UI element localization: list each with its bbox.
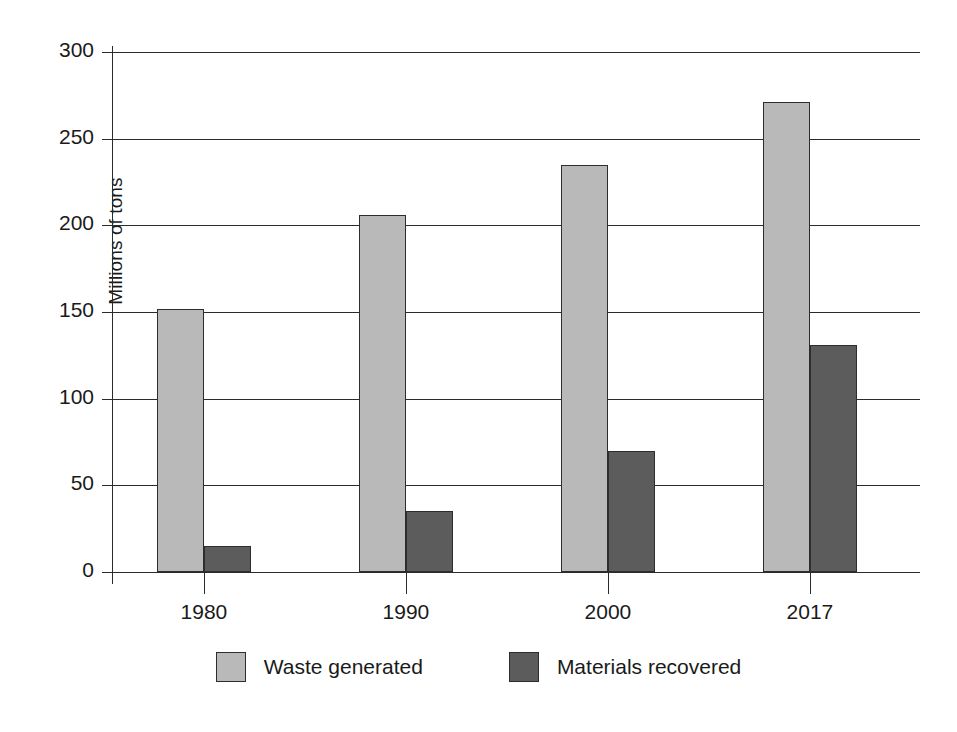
- gridline: [112, 572, 920, 573]
- bar-1980-materials-recovered: [204, 546, 251, 572]
- y-axis-tick: [102, 225, 112, 226]
- bar-2000-materials-recovered: [608, 451, 655, 572]
- x-axis-label-1990: 1990: [346, 600, 466, 624]
- y-axis-tick: [102, 312, 112, 313]
- y-axis-tick: [102, 399, 112, 400]
- bar-chart: Millions of tons Waste generatedMaterial…: [0, 0, 957, 732]
- bars-layer: [112, 52, 920, 572]
- legend-label: Materials recovered: [557, 655, 741, 679]
- legend-item-waste-generated: Waste generated: [216, 652, 423, 682]
- legend-swatch-icon: [509, 652, 539, 682]
- y-axis-tick-label: 100: [16, 385, 94, 409]
- x-axis-tick: [406, 572, 407, 594]
- y-axis-tick: [102, 485, 112, 486]
- bar-1990-materials-recovered: [406, 511, 453, 572]
- legend-item-materials-recovered: Materials recovered: [509, 652, 741, 682]
- x-axis-tick: [204, 572, 205, 594]
- y-axis-tick-label: 250: [16, 125, 94, 149]
- x-axis-tick: [608, 572, 609, 594]
- x-axis-label-2000: 2000: [548, 600, 668, 624]
- bar-2000-waste-generated: [561, 165, 608, 572]
- x-axis-label-1980: 1980: [144, 600, 264, 624]
- y-axis-tick: [102, 572, 112, 573]
- y-axis-tick-label: 200: [16, 211, 94, 235]
- chart-legend: Waste generatedMaterials recovered: [0, 652, 957, 682]
- y-axis-tick: [102, 139, 112, 140]
- bar-1980-waste-generated: [157, 309, 204, 572]
- legend-label: Waste generated: [264, 655, 423, 679]
- legend-swatch-icon: [216, 652, 246, 682]
- y-axis-tick: [102, 52, 112, 53]
- y-axis-tick-label: 300: [16, 38, 94, 62]
- y-axis-tick-label: 150: [16, 298, 94, 322]
- y-axis-tick-label: 0: [16, 558, 94, 582]
- x-axis-label-2017: 2017: [750, 600, 870, 624]
- bar-2017-waste-generated: [763, 102, 810, 572]
- x-axis-tick: [810, 572, 811, 594]
- bar-2017-materials-recovered: [810, 345, 857, 572]
- y-axis-tick-label: 50: [16, 471, 94, 495]
- bar-1990-waste-generated: [359, 215, 406, 572]
